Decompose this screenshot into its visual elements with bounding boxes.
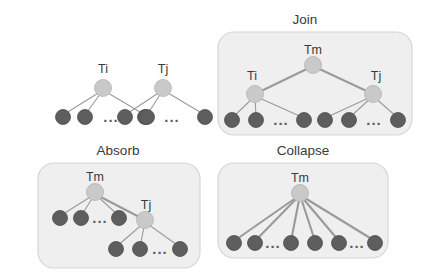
join-tj-label: Tj (371, 69, 381, 83)
absorb-tj-ellipsis: ... (152, 240, 168, 257)
collapse-title: Collapse (277, 143, 330, 158)
absorb-tm-node (87, 184, 104, 201)
join-ti-ellipsis: ... (273, 111, 289, 128)
collapse-leaf-3 (284, 236, 299, 251)
join-tj-leaf-2 (342, 113, 357, 128)
join-tj-ellipsis: ... (366, 111, 382, 128)
join-ti-leaf-1 (225, 113, 240, 128)
join-ti-node (247, 86, 264, 103)
panel-collapse: Collapse Tm ... ... (218, 143, 388, 258)
input-tj-leaf-1 (118, 110, 133, 125)
input-tj-root-label: Tj (158, 62, 168, 76)
input-ti-leaf-2 (78, 110, 93, 125)
figure-root: Ti ... Tj ... (0, 0, 428, 274)
join-ti-leaf-2 (249, 113, 264, 128)
join-tj-leaf-3 (391, 113, 406, 128)
absorb-tm-leaf-3 (112, 211, 127, 226)
collapse-leaf-5 (332, 236, 347, 251)
collapse-leaf-2 (248, 236, 263, 251)
absorb-tj-leaf-2 (133, 242, 148, 257)
absorb-tm-leaf-2 (74, 211, 89, 226)
absorb-tj-node (137, 212, 154, 229)
absorb-tm-label: Tm (86, 170, 104, 184)
collapse-ellipsis-1: ... (265, 234, 281, 251)
join-tm-label: Tm (304, 43, 322, 57)
collapse-tm-label: Tm (291, 171, 309, 185)
input-ti-leaf-1 (56, 110, 71, 125)
tree-transformation-diagram: Ti ... Tj ... (0, 0, 428, 274)
input-tree-ti: Ti ... (56, 62, 153, 125)
input-tj-leaf-2 (140, 110, 155, 125)
absorb-title: Absorb (97, 143, 140, 158)
panel-absorb: Absorb Tm Tj ... ... (38, 143, 200, 268)
join-ti-label: Ti (247, 69, 257, 83)
join-title: Join (293, 12, 318, 27)
absorb-tj-label: Tj (141, 198, 151, 212)
join-tj-node (365, 86, 382, 103)
absorb-tm-ellipsis: ... (92, 209, 108, 226)
collapse-leaf-6 (368, 236, 383, 251)
join-tj-leaf-1 (318, 113, 333, 128)
absorb-tj-leaf-1 (109, 242, 124, 257)
panel-join: Join Tm Ti Tj ... ... (218, 12, 412, 135)
input-tj-leaf-3 (198, 110, 213, 125)
collapse-ellipsis-2: ... (349, 234, 365, 251)
input-tj-ellipsis: ... (164, 108, 180, 125)
input-ti-ellipsis: ... (103, 108, 119, 125)
panel-input-trees: Ti ... Tj ... (56, 62, 213, 125)
collapse-tm-node (292, 185, 309, 202)
absorb-tm-leaf-1 (53, 211, 68, 226)
input-tj-root-node (155, 80, 172, 97)
input-tree-tj: Tj ... (118, 62, 213, 125)
input-ti-root-label: Ti (98, 62, 108, 76)
collapse-leaf-1 (227, 236, 242, 251)
join-ti-leaf-3 (297, 113, 312, 128)
collapse-leaf-4 (308, 236, 323, 251)
join-tm-node (305, 57, 322, 74)
input-ti-root-node (95, 80, 112, 97)
absorb-tj-leaf-3 (173, 242, 188, 257)
